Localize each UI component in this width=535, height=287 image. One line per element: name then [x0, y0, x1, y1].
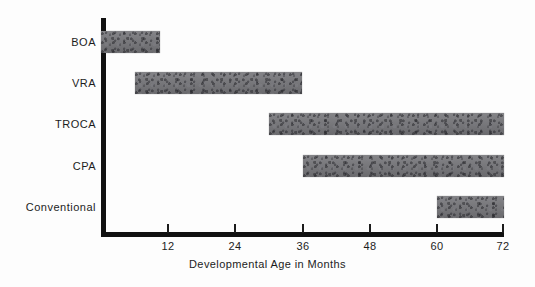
x-tick-label-48: 48: [350, 240, 390, 252]
y-axis-label-conventional: Conventional: [1, 201, 96, 213]
x-axis-title: Developmental Age in Months: [0, 258, 535, 270]
bar-boa: [101, 31, 160, 53]
y-axis-label-vra: VRA: [1, 77, 96, 89]
x-tick-label-24: 24: [215, 240, 255, 252]
bar-vra: [135, 72, 303, 94]
bar-troca: [269, 113, 504, 135]
x-tick-label-36: 36: [283, 240, 323, 252]
x-tick-label-12: 12: [148, 240, 188, 252]
x-tick-label-72: 72: [483, 240, 523, 252]
range-bar-chart: BOA VRA TROCA CPA Conventional 12 24 36 …: [0, 0, 535, 287]
y-axis-label-boa: BOA: [1, 36, 96, 48]
y-axis-category-labels: BOA VRA TROCA CPA Conventional: [0, 0, 96, 287]
x-tick-label-60: 60: [417, 240, 457, 252]
bar-conventional: [437, 196, 504, 218]
plot-area: [101, 18, 504, 234]
y-axis-label-cpa: CPA: [1, 160, 96, 172]
bar-cpa: [303, 155, 505, 177]
y-axis-label-troca: TROCA: [1, 118, 96, 130]
